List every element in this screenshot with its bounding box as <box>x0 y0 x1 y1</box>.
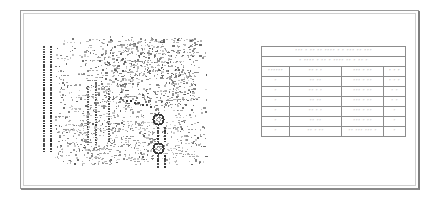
table-cell-text: ˝ <box>384 109 405 115</box>
table-cell: ˝˝ ˝ ˝ <box>290 107 342 117</box>
table-cell: ˝ <box>262 107 290 117</box>
table-cell-text: ˝˝˝ ˝ ˝˝ <box>342 79 383 85</box>
table-subtitle-row: ˝ ˝˝˝˝ ˝ ˝˝ ˝ ˝˝˝˝ ˝˝ ˝ ˝˝ ˝ <box>262 57 406 67</box>
table-header-cell-4: ˝ ˝ ˝ <box>384 67 406 77</box>
table-header-text-2: ˝˝ ˝ ˝ <box>290 69 341 75</box>
table-row: ˝ ˝˝ ˝ ˝˝ ˝˝ ˝˝˝ ˝˝˝ ˝ ˝ <box>262 127 406 137</box>
pcb-artwork-region <box>30 26 230 174</box>
table-header-cell-1: ˝˝˝˝˝˝ <box>262 67 290 77</box>
table-cell: ˝ ˝ <box>384 97 406 107</box>
drawing-parts-table: ˝˝˝ ˝ ˝˝ ˝˝ ˝˝˝˝ ˝ ˝ ˝˝˝ ˝˝ ˝˝˝ ˝ ˝˝˝˝ ˝… <box>261 46 406 137</box>
table-cell: ˝ ˝ ˝ <box>384 77 406 87</box>
table-cell-text: ˝ <box>384 129 405 135</box>
table-cell-text: ˝ <box>262 129 289 135</box>
table-cell-text: ˝˝˝ ˝ ˝˝ <box>342 119 383 125</box>
table-cell-text: ˝ <box>262 79 289 85</box>
table-cell-text: ˝ ˝ <box>384 89 405 95</box>
table-cell-text: ˝ <box>262 99 289 105</box>
table-cell: ˝˝˝ ˝ ˝˝ <box>342 117 384 127</box>
table-cell-text: ˝˝˝ ˝ ˝˝ <box>342 109 383 115</box>
table-header-text-1: ˝˝˝˝˝˝ <box>262 69 289 75</box>
table-header-text-4: ˝ ˝ ˝ <box>384 69 405 75</box>
table-cell: ˝˝ ˝ ˝ <box>290 87 342 97</box>
table-cell-text: ˝˝ ˝˝ <box>290 119 341 125</box>
table-row: ˝ ˝˝ ˝˝ ˝˝˝ ˝ ˝˝ ˝ ˝ <box>262 97 406 107</box>
table-cell: ˝ ˝ <box>384 87 406 97</box>
table-cell: ˝˝ ˝˝ <box>290 117 342 127</box>
table-cell-text: ˝˝ ˝ ˝ <box>290 89 341 95</box>
table-cell-text: ˝ <box>262 119 289 125</box>
table-title-row: ˝˝˝ ˝ ˝˝ ˝˝ ˝˝˝˝ ˝ ˝ ˝˝˝ ˝˝ ˝˝˝ <box>262 47 406 57</box>
table-cell-text: ˝˝ ˝˝ <box>290 79 341 85</box>
table-row: ˝ ˝˝ ˝˝ ˝˝˝ ˝ ˝˝ ˝ ˝ ˝ <box>262 77 406 87</box>
table-header-row: ˝˝˝˝˝˝ ˝˝ ˝ ˝ ˝˝˝ ˝ ˝˝ ˝ ˝ ˝ <box>262 67 406 77</box>
table-cell-text: ˝ ˝ ˝ <box>384 79 405 85</box>
mounting-hole-ring-upper <box>153 114 163 124</box>
table-cell-text: ˝˝˝ ˝ ˝˝ <box>342 99 383 105</box>
table-cell: ˝ <box>262 117 290 127</box>
table-cell: ˝ <box>384 127 406 137</box>
table-cell-text: ˝˝ ˝ ˝ <box>290 109 341 115</box>
table-cell: ˝˝ ˝˝ <box>290 77 342 87</box>
table-cell-text: ˝ <box>262 89 289 95</box>
table-cell-text: ˝ ˝ <box>384 99 405 105</box>
scanned-page: ˝˝˝ ˝ ˝˝ ˝˝ ˝˝˝˝ ˝ ˝ ˝˝˝ ˝˝ ˝˝˝ ˝ ˝˝˝˝ ˝… <box>0 0 439 206</box>
table-cell-text: ˝˝ ˝˝ <box>290 99 341 105</box>
table-subtitle-cell: ˝ ˝˝˝˝ ˝ ˝˝ ˝ ˝˝˝˝ ˝˝ ˝ ˝˝ ˝ <box>262 57 406 67</box>
table-cell: ˝˝ ˝˝˝ ˝˝˝ ˝ <box>342 127 384 137</box>
table-cell: ˝ <box>262 87 290 97</box>
table-cell: ˝˝ ˝ ˝˝ <box>290 127 342 137</box>
table-cell-text: ˝ <box>384 119 405 125</box>
pcb-artwork-plot <box>30 26 230 174</box>
table-subtitle-text: ˝ ˝˝˝˝ ˝ ˝˝ ˝ ˝˝˝˝ ˝˝ ˝ ˝˝ ˝ <box>262 59 405 65</box>
table-cell: ˝˝˝ ˝ ˝˝ <box>342 87 384 97</box>
table-cell-text: ˝˝ ˝˝˝ ˝˝˝ ˝ <box>342 129 383 135</box>
table-cell: ˝ <box>262 127 290 137</box>
table-cell: ˝ <box>384 117 406 127</box>
table-header-text-3: ˝˝˝ ˝ ˝˝ <box>342 69 383 75</box>
table-cell-text: ˝˝ ˝ ˝˝ <box>290 129 341 135</box>
table-header-cell-3: ˝˝˝ ˝ ˝˝ <box>342 67 384 77</box>
table-title-text: ˝˝˝ ˝ ˝˝ ˝˝ ˝˝˝˝ ˝ ˝ ˝˝˝ ˝˝ ˝˝˝ <box>262 49 405 55</box>
table-row: ˝ ˝˝ ˝ ˝ ˝˝˝ ˝ ˝˝ ˝ <box>262 107 406 117</box>
table-cell: ˝ <box>262 77 290 87</box>
table-cell: ˝˝˝ ˝ ˝˝ <box>342 77 384 87</box>
table-cell: ˝˝˝ ˝ ˝˝ <box>342 107 384 117</box>
table-header-cell-2: ˝˝ ˝ ˝ <box>290 67 342 77</box>
table-cell: ˝˝ ˝˝ <box>290 97 342 107</box>
drawing-parts-table-region: ˝˝˝ ˝ ˝˝ ˝˝ ˝˝˝˝ ˝ ˝ ˝˝˝ ˝˝ ˝˝˝ ˝ ˝˝˝˝ ˝… <box>261 46 405 127</box>
table-cell-text: ˝˝˝ ˝ ˝˝ <box>342 89 383 95</box>
table-title-cell: ˝˝˝ ˝ ˝˝ ˝˝ ˝˝˝˝ ˝ ˝ ˝˝˝ ˝˝ ˝˝˝ <box>262 47 406 57</box>
table-cell: ˝˝˝ ˝ ˝˝ <box>342 97 384 107</box>
table-cell: ˝ <box>262 97 290 107</box>
table-cell: ˝ <box>384 107 406 117</box>
table-row: ˝ ˝˝ ˝ ˝ ˝˝˝ ˝ ˝˝ ˝ ˝ <box>262 87 406 97</box>
table-cell-text: ˝ <box>262 109 289 115</box>
table-row: ˝ ˝˝ ˝˝ ˝˝˝ ˝ ˝˝ ˝ <box>262 117 406 127</box>
